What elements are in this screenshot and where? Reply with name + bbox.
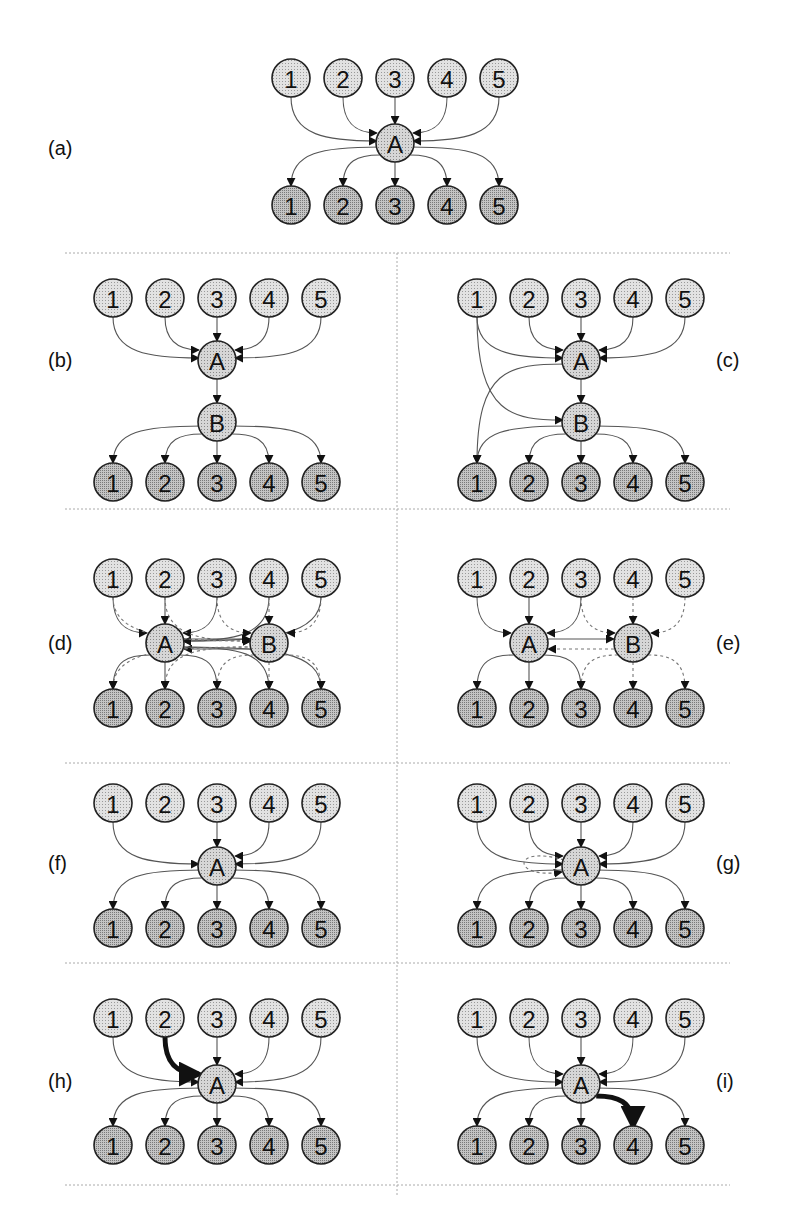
node-label: 2 — [158, 470, 171, 497]
node-label: 5 — [314, 1133, 327, 1160]
hidden-node-A: A — [562, 341, 600, 379]
input-node-3: 3 — [198, 559, 236, 597]
node-label: 5 — [678, 286, 691, 313]
input-node-5: 5 — [666, 279, 704, 317]
edge-A-to-out4 — [232, 878, 269, 909]
edge-A-to-out1 — [291, 147, 380, 186]
edge-in2-to-A — [529, 1037, 563, 1074]
edge-A-to-out5 — [410, 147, 499, 186]
edge-in4-to-A — [235, 1037, 269, 1074]
input-node-5: 5 — [480, 59, 518, 97]
node-label: A — [209, 1072, 225, 1099]
edge-in5-to-A — [235, 1037, 321, 1082]
node-label: 4 — [626, 470, 639, 497]
edge-in3-to-B — [217, 597, 251, 633]
input-node-4: 4 — [250, 559, 288, 597]
edge-in4-to-A — [599, 822, 633, 856]
node-label: 1 — [470, 1133, 483, 1160]
input-node-1: 1 — [458, 559, 496, 597]
edge-A-to-out5 — [596, 870, 685, 909]
node-label: 1 — [470, 286, 483, 313]
input-node-1: 1 — [272, 59, 310, 97]
edge-in4-to-A — [235, 317, 269, 350]
node-label: 1 — [470, 916, 483, 943]
edge-A-to-out3 — [544, 655, 581, 689]
node-label: B — [209, 410, 225, 437]
node-label: 5 — [492, 66, 505, 93]
node-label: 4 — [262, 286, 275, 313]
input-node-2: 2 — [146, 559, 184, 597]
edge-A-to-out1 — [477, 655, 514, 689]
node-label: 4 — [626, 566, 639, 593]
panel-f: 1234512345A(f) — [48, 784, 340, 947]
node-label: 3 — [210, 286, 223, 313]
edge-A-to-out4 — [232, 1096, 269, 1126]
edge-B-to-out5 — [596, 426, 685, 463]
output-node-5: 5 — [666, 1126, 704, 1164]
edge-A-to-out4 — [410, 155, 447, 186]
node-label: 5 — [314, 1006, 327, 1033]
node-label: 1 — [284, 66, 297, 93]
output-node-4: 4 — [614, 909, 652, 947]
node-label: B — [261, 631, 277, 658]
output-node-3: 3 — [376, 186, 414, 224]
output-node-4: 4 — [614, 1126, 652, 1164]
output-node-5: 5 — [480, 186, 518, 224]
node-label: 4 — [626, 1006, 639, 1033]
node-label: 2 — [522, 286, 535, 313]
edge-B-to-out5 — [232, 426, 321, 463]
input-node-1: 1 — [458, 279, 496, 317]
input-node-4: 4 — [250, 784, 288, 822]
edge-in2-to-A — [343, 97, 377, 133]
edge-A-to-out4 — [596, 878, 633, 909]
edge-B-to-out3 — [217, 655, 254, 689]
node-label: 4 — [262, 1133, 275, 1160]
node-label: 3 — [574, 566, 587, 593]
edge-B-to-out4 — [596, 434, 633, 463]
output-node-3: 3 — [198, 1126, 236, 1164]
output-node-4: 4 — [250, 909, 288, 947]
edge-in5-to-A — [235, 822, 321, 864]
output-node-5: 5 — [302, 463, 340, 501]
node-label: 4 — [626, 1133, 639, 1160]
node-label: 1 — [470, 470, 483, 497]
node-label: 2 — [522, 791, 535, 818]
panel-c: 1234512345AB(c) — [458, 279, 739, 501]
hidden-node-B: B — [562, 403, 600, 441]
hidden-node-B: B — [198, 403, 236, 441]
node-label: 4 — [626, 286, 639, 313]
node-label: 1 — [284, 193, 297, 220]
node-label: 3 — [210, 1133, 223, 1160]
output-node-3: 3 — [562, 463, 600, 501]
node-label: 1 — [106, 566, 119, 593]
output-node-5: 5 — [302, 689, 340, 727]
input-node-3: 3 — [198, 999, 236, 1037]
panel-label-c: (c) — [716, 349, 739, 371]
output-node-5: 5 — [302, 909, 340, 947]
input-node-1: 1 — [458, 784, 496, 822]
output-node-1: 1 — [272, 186, 310, 224]
edge-B-to-out1 — [477, 426, 566, 463]
input-node-5: 5 — [302, 279, 340, 317]
output-node-4: 4 — [250, 463, 288, 501]
output-node-4: 4 — [250, 1126, 288, 1164]
node-label: 2 — [522, 566, 535, 593]
hidden-node-A: A — [562, 847, 600, 885]
output-node-2: 2 — [324, 186, 362, 224]
output-node-2: 2 — [510, 689, 548, 727]
node-label: 3 — [574, 916, 587, 943]
output-node-1: 1 — [458, 689, 496, 727]
node-label: 3 — [574, 1133, 587, 1160]
hidden-node-A: A — [562, 1065, 600, 1103]
output-node-4: 4 — [250, 689, 288, 727]
output-node-3: 3 — [562, 689, 600, 727]
panel-label-b: (b) — [48, 349, 72, 371]
output-node-5: 5 — [302, 1126, 340, 1164]
node-label: 3 — [210, 566, 223, 593]
input-node-2: 2 — [510, 279, 548, 317]
input-node-3: 3 — [198, 279, 236, 317]
edge-in4-to-A — [413, 97, 447, 133]
node-label: 2 — [158, 791, 171, 818]
node-label: 5 — [314, 916, 327, 943]
edge-in5-to-B — [651, 597, 685, 633]
